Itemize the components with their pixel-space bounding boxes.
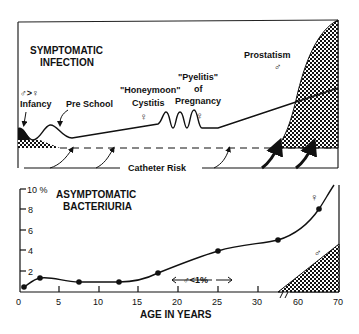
- prostatism-hatched-area: [276, 20, 338, 148]
- preschool-pointer-arrow: [60, 110, 68, 124]
- data-point: [116, 279, 122, 285]
- data-point: [21, 284, 27, 290]
- x-tick-60: 60: [293, 297, 303, 307]
- x-ticks: [59, 286, 258, 292]
- x-tick-10: 10: [93, 297, 103, 307]
- catheter-risk-label: Catheter Risk: [128, 163, 187, 173]
- y-ticks: [20, 189, 26, 271]
- data-point: [76, 279, 82, 285]
- x-tick-25: 25: [212, 297, 222, 307]
- male-lt-1-percent-label: ♂<1%: [183, 275, 208, 285]
- asymptomatic-title-line1: ASYMPTOMATIC: [56, 189, 136, 200]
- y-tick-10: 10 %: [27, 185, 48, 195]
- asymptomatic-bacteriuria-panel: 10 % 8 6 4 2 0 5 10 15 20 25 30 60 70 AG…: [16, 185, 343, 320]
- female-symbol: ♀: [310, 191, 318, 203]
- data-point: [215, 248, 221, 254]
- catheter-arrow-1: [50, 149, 72, 168]
- prostatism-male-symbol: ♂: [274, 61, 282, 72]
- x-tick-15: 15: [132, 297, 142, 307]
- y-tick-4: 4: [28, 246, 33, 256]
- infancy-label: Infancy: [20, 99, 52, 109]
- catheter-arrow-5-bold: [296, 146, 312, 168]
- x-tick-20: 20: [172, 297, 182, 307]
- y-tick-2: 2: [28, 267, 33, 277]
- pregnancy-female-symbol: ♀: [196, 110, 204, 121]
- infancy-pointer-arrow: [24, 112, 26, 124]
- of-label: of: [194, 84, 203, 94]
- cystitis-label: Cystitis: [132, 98, 165, 108]
- preschool-label: Pre School: [66, 99, 113, 109]
- honeymoon-label: "Honeymoon": [120, 85, 181, 95]
- data-point: [155, 270, 161, 276]
- data-point: [275, 237, 281, 243]
- chart-canvas: SYMPTOMATIC INFECTION ♂>♀ Infancy Pre Sc…: [0, 0, 359, 334]
- x-axis-label: AGE IN YEARS: [140, 309, 212, 320]
- y-tick-8: 8: [28, 205, 33, 215]
- male-gt-female-label: ♂>♀: [20, 88, 39, 98]
- x-tick-30: 30: [252, 297, 262, 307]
- y-tick-6: 6: [28, 226, 33, 236]
- male-bacteriuria-hatched-area: [278, 244, 339, 292]
- pregnancy-label: Pregnancy: [175, 96, 221, 106]
- catheter-arrow-2: [96, 149, 113, 168]
- catheter-arrow-3: [214, 149, 229, 168]
- x-tick-5: 5: [56, 297, 61, 307]
- cystitis-female-symbol: ♀: [140, 111, 148, 122]
- symptomatic-infection-panel: SYMPTOMATIC INFECTION ♂>♀ Infancy Pre Sc…: [18, 20, 338, 173]
- data-point: [316, 206, 322, 212]
- pyelitis-label: "Pyelitis": [178, 72, 218, 82]
- x-tick-70: 70: [333, 297, 343, 307]
- panel-top-border: [18, 20, 338, 22]
- infancy-male-hatched-area: [18, 140, 60, 148]
- symptomatic-title-line1: SYMPTOMATIC: [30, 45, 103, 56]
- male-symbol: ♂: [314, 247, 322, 258]
- symptomatic-title-line2: INFECTION: [40, 57, 94, 68]
- data-point: [37, 275, 43, 281]
- prostatism-label: Prostatism: [244, 50, 291, 60]
- asymptomatic-title-line2: BACTERIURIA: [63, 201, 132, 212]
- x-tick-0: 0: [16, 297, 21, 307]
- female-data-points: [21, 206, 322, 290]
- catheter-arrow-4-bold: [262, 146, 278, 168]
